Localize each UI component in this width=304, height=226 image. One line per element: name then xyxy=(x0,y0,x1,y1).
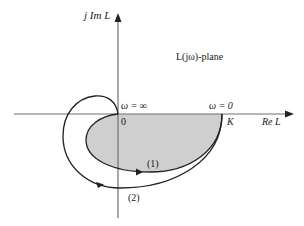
origin-label: 0 xyxy=(121,117,126,127)
diagram-svg xyxy=(0,0,304,226)
omega-infinity-label: ω = ∞ xyxy=(121,101,147,111)
real-axis-label: Re L xyxy=(262,117,281,127)
curve-2-arrow-icon xyxy=(96,182,104,188)
real-axis-label-text: Re L xyxy=(262,116,281,127)
curve-2-label: (2) xyxy=(128,193,140,203)
imag-axis-label-text: j Im L xyxy=(84,9,110,21)
imag-axis-label: j Im L xyxy=(84,10,110,21)
nyquist-diagram: j Im L L(jω)-plane ω = ∞ ω = 0 0 K Re L … xyxy=(0,0,304,226)
plane-label: L(jω)-plane xyxy=(176,52,223,62)
curve-1-label: (1) xyxy=(147,159,159,169)
real-axis-arrow-icon xyxy=(285,111,294,118)
k-label: K xyxy=(227,117,234,127)
omega-zero-label: ω = 0 xyxy=(209,101,233,111)
imag-axis-arrow-icon xyxy=(115,13,122,22)
